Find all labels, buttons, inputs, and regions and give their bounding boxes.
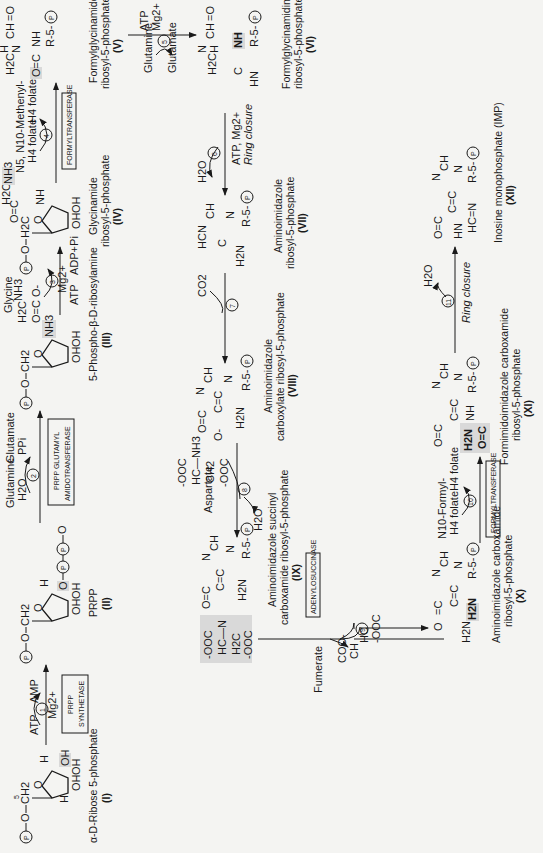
svg-text:N: N [194,387,206,395]
svg-text:AMIDOTRANSFERASE: AMIDOTRANSFERASE [64,426,71,501]
svg-text:N: N [452,165,464,173]
svg-text:R-5-: R-5- [240,537,252,559]
svg-text:OH: OH [70,196,82,213]
svg-text:ADP+Pi: ADP+Pi [68,236,80,275]
svg-text:H2N: H2N [460,621,472,643]
svg-text:PPi: PPi [16,438,28,455]
svg-text:H2C: H2C [16,301,28,323]
svg-text:Formylglycinamidine: Formylglycinamidine [280,0,292,89]
svg-text:P: P [23,835,30,840]
svg-text:ATP: ATP [28,714,40,735]
compound-VIII: N CH C=C N O=C O- H2N R-5- P Aminoimidaz… [194,292,298,441]
svg-text:H2O: H2O [196,160,208,183]
svg-text:R-5-: R-5- [240,205,252,227]
svg-text:P: P [244,195,251,200]
svg-text:C=C: C=C [212,391,224,413]
svg-text:R-5-: R-5- [466,371,478,393]
svg-text:P: P [23,266,30,271]
svg-text:CH: CH [438,363,450,379]
svg-text:N: N [200,553,212,561]
svg-text:R-5-: R-5- [466,161,478,183]
svg-text:Formylglycinamide: Formylglycinamide [87,0,99,83]
svg-text:Mg2+: Mg2+ [150,3,162,31]
svg-text:P: P [48,15,55,20]
svg-text:Ring closure: Ring closure [460,262,472,323]
svg-text:PRPP: PRPP [87,588,99,617]
svg-text:N10-Formyl-: N10-Formyl- [436,478,448,539]
svg-text:N: N [196,45,208,53]
svg-text:ribosyl-5-phosphate: ribosyl-5-phosphate [284,177,296,269]
svg-text:CH2: CH2 [19,604,31,626]
svg-text:CH: CH [4,23,16,39]
svg-text:=C: =C [432,601,444,615]
svg-text:5: 5 [161,40,168,44]
svg-text:R-5-: R-5- [248,25,260,47]
compound-XI: O=C C=C N CH N H2N O=C NH R-5- P Formimi… [430,308,534,465]
svg-text:Glutamine: Glutamine [4,458,16,508]
svg-text:(XI): (XI) [522,400,534,417]
svg-text:NH: NH [30,31,42,47]
svg-text:Aminoimidazole: Aminoimidazole [272,179,284,253]
svg-text:Glutamate: Glutamate [166,22,178,73]
step-2: Glutamine H2O 2 Glutamate PPi PRPP GLUTA… [4,411,74,523]
svg-text:NH3: NH3 [2,162,14,184]
svg-text:HC: HC [196,233,208,249]
svg-text:11: 11 [445,299,452,306]
svg-text:O-: O- [30,284,42,297]
svg-text:H4 folate: H4 folate [448,491,460,535]
svg-text:N: N [224,545,236,553]
svg-text:(XII): (XII) [504,185,516,205]
svg-text:carboxamide ribosyl-5-phosphat: carboxamide ribosyl-5-phosphate [278,470,290,625]
svg-text:C=C: C=C [214,569,226,591]
svg-text:ADENYLOSUCCINASE: ADENYLOSUCCINASE [310,539,317,614]
svg-text:PRPP GLUTAMYL: PRPP GLUTAMYL [53,432,60,490]
svg-text:P: P [244,359,251,364]
svg-text:(II): (II) [100,597,112,610]
svg-text:5-Phospho-β-D-ribosylamine: 5-Phospho-β-D-ribosylamine [87,247,99,381]
svg-text:H2O: H2O [252,508,264,531]
svg-text:SYNTHETASE: SYNTHETASE [78,681,85,727]
svg-text:C=C: C=C [448,399,460,421]
svg-text:P: P [60,565,67,570]
svg-text:O-: O- [212,428,224,441]
svg-text:CH: CH [438,155,450,171]
svg-text:H4 folate: H4 folate [448,447,460,491]
svg-text:(IV): (IV) [111,208,123,225]
svg-text:N: N [430,173,442,181]
svg-text:N: N [10,45,22,53]
svg-text:Glutamate: Glutamate [4,412,16,463]
step-7: CO2 7 [196,273,238,363]
svg-text:C: C [232,67,244,75]
svg-text:O: O [19,633,31,642]
svg-text:-OOC: -OOC [202,630,214,659]
svg-text:O: O [32,215,44,224]
svg-text:H2N: H2N [234,407,246,429]
svg-text:H2N: H2N [462,429,474,451]
svg-text:O=C: O=C [432,424,444,447]
step-6: 6 H2O ATP, Mg2+ Ring closure [196,104,254,195]
svg-text:P: P [23,655,30,660]
svg-text:(III): (III) [100,332,112,348]
svg-text:-OOC: -OOC [218,458,230,487]
svg-text:P: P [244,527,251,532]
svg-text:N5, N10-Methenyl-: N5, N10-Methenyl- [14,80,26,173]
step-4: N5, N10-Methenyl- H4 folate 4 H4 folate … [14,79,76,183]
svg-text:O=C: O=C [476,426,488,449]
svg-text:(VIII): (VIII) [286,374,298,397]
svg-text:Inosine monophosphate (IMP): Inosine monophosphate (IMP) [492,102,504,243]
svg-text:-OOC: -OOC [176,458,188,487]
svg-text:O=C: O=C [30,54,42,77]
compound-VI: H2C N H CH =O C NH HN R-5- P Formylglyci… [196,0,316,89]
svg-text:FORMYLTRANSFERASE: FORMYLTRANSFERASE [490,452,497,533]
svg-text:Aminoimidazole: Aminoimidazole [262,339,274,413]
svg-text:FORMYLTRANSFERASE: FORMYLTRANSFERASE [66,84,73,165]
svg-text:H2C: H2C [0,183,12,205]
svg-text:NH: NH [232,32,244,48]
svg-text:O: O [32,349,44,358]
step-1: ATP 1 AMP Mg2+ PRPP SYNTHETASE [28,665,88,745]
svg-text:OH: OH [70,346,82,363]
svg-text:Glycinamide: Glycinamide [87,177,99,235]
compound-II: P O CH2 O H OH OH O P P O PRPP (II) [19,525,112,663]
svg-text:O: O [57,581,69,590]
svg-text:H2C: H2C [4,53,16,75]
